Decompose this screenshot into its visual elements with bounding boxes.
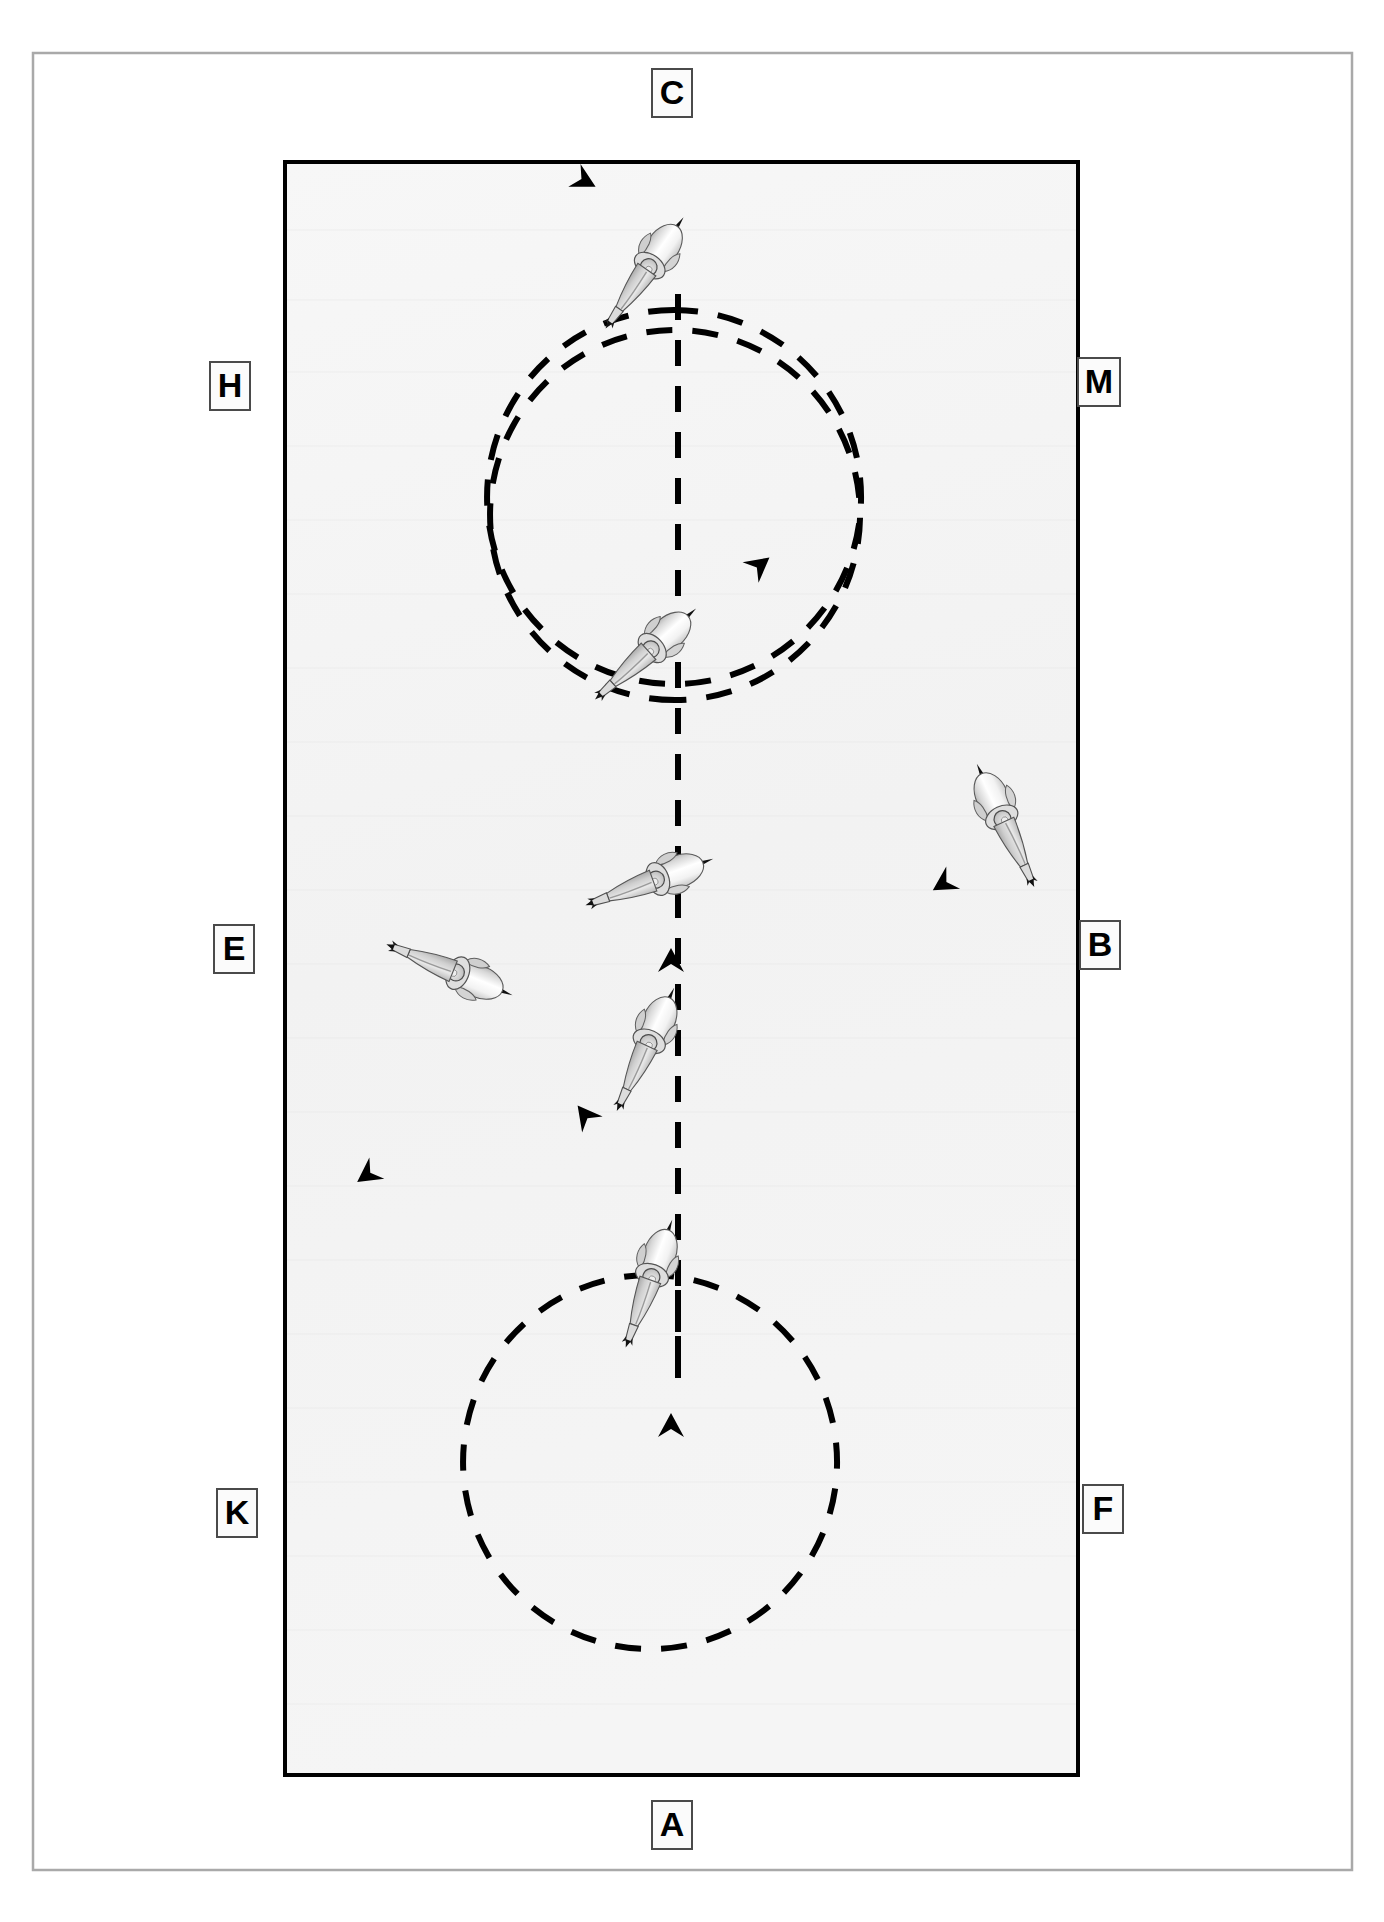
arena-letter-M-label: M	[1085, 364, 1113, 398]
arena-letter-C-label: C	[660, 75, 685, 109]
arena-letter-E: E	[213, 924, 255, 974]
arena-letter-H: H	[209, 361, 251, 411]
dressage-diagram-canvas	[0, 0, 1384, 1922]
arena-letter-H-label: H	[218, 368, 243, 402]
arena-letter-A: A	[651, 1800, 693, 1850]
arena-letter-C: C	[651, 68, 693, 118]
arena-letter-K-label: K	[225, 1495, 250, 1529]
arena-letter-E-label: E	[223, 931, 246, 965]
arena-letter-M: M	[1077, 357, 1121, 407]
arena-letter-B-label: B	[1088, 927, 1113, 961]
arena-letter-F-label: F	[1093, 1491, 1114, 1525]
arena-letter-K: K	[216, 1488, 258, 1538]
arena-letter-A-label: A	[660, 1807, 685, 1841]
arena-letter-F: F	[1082, 1484, 1124, 1534]
arena-letter-B: B	[1079, 920, 1121, 970]
diagram-page: C H M E B K F A	[0, 0, 1384, 1922]
